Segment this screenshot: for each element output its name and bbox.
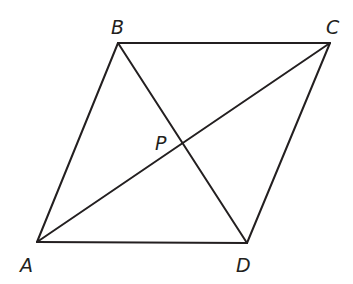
side-DA [37, 242, 247, 243]
label-intersection-P: P [155, 132, 167, 154]
label-vertex-A: A [18, 254, 33, 276]
diagonal-AC [37, 43, 330, 242]
parallelogram-diagram: A B C D P [0, 0, 353, 284]
label-vertex-B: B [111, 16, 124, 38]
label-vertex-C: C [326, 16, 340, 38]
side-CD [247, 43, 330, 243]
label-vertex-D: D [236, 254, 251, 276]
diagonal-BD [118, 43, 247, 243]
side-AB [37, 43, 118, 242]
diagonals [37, 43, 330, 243]
